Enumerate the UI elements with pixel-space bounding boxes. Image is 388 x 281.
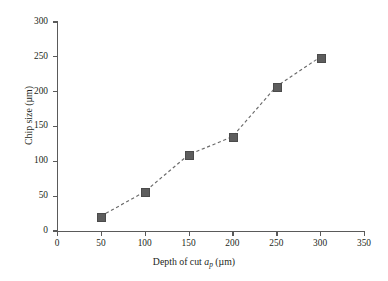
data-point-marker: [273, 83, 282, 92]
chart-figure: 0 50 100 150 200 250 300 0 50 100 150 20…: [0, 0, 388, 281]
data-point-marker: [97, 213, 106, 222]
series-line-group: [0, 0, 388, 281]
data-point-marker: [229, 133, 238, 142]
series-line: [101, 57, 320, 216]
data-point-marker: [185, 151, 194, 160]
data-point-marker: [317, 54, 326, 63]
data-point-marker: [141, 188, 150, 197]
